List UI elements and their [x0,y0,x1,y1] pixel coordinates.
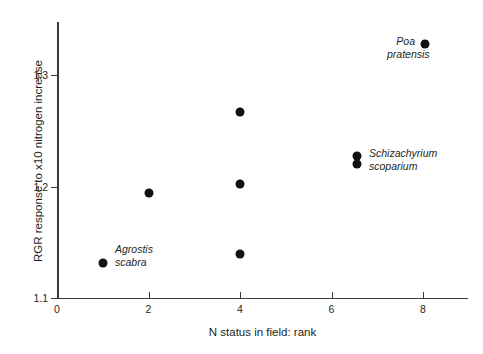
x-axis-title: N status in field: rank [57,326,468,338]
annotation-genus: Poa [387,35,415,48]
y-axis-tick-1.2 [51,187,57,188]
annotation-schizachyrium-scoparium: Schizachyrium scoparium [369,147,437,174]
x-axis-tick-6 [332,292,333,298]
x-axis-line [57,298,468,300]
x-axis-tick-label-2: 2 [137,303,161,315]
x-axis-tick-label-0: 0 [45,303,69,315]
y-axis-title: RGR response to x10 nitrogen increase [32,31,44,291]
data-point [236,249,245,258]
x-axis-tick-label-6: 6 [320,303,344,315]
x-axis-tick-8 [423,292,424,298]
y-axis-tick-1.1 [51,298,57,299]
data-point [144,189,153,198]
x-axis-tick-label-4: 4 [228,303,252,315]
annotation-agrostis-scabra: Agrostis scabra [115,243,153,270]
data-point [420,40,429,49]
annotation-poa-pratensis: Poa pratensis [387,35,415,62]
annotation-epithet: scoparium [369,160,437,173]
data-point [236,107,245,116]
data-point [353,160,362,169]
x-axis-tick-0 [57,292,58,298]
y-axis-line [57,22,59,299]
annotation-epithet: scabra [115,256,153,269]
data-point [236,180,245,189]
x-axis-tick-2 [149,292,150,298]
annotation-genus: Schizachyrium [369,147,437,160]
x-axis-tick-4 [240,292,241,298]
x-axis-tick-label-8: 8 [411,303,435,315]
y-axis-tick-1.3 [51,75,57,76]
data-point [99,259,108,268]
annotation-genus: Agrostis [115,243,153,256]
annotation-epithet: pratensis [387,48,415,61]
scatter-plot-figure: 1.3 1.2 1.1 0 2 4 6 8 RGR response to x1… [0,0,483,354]
